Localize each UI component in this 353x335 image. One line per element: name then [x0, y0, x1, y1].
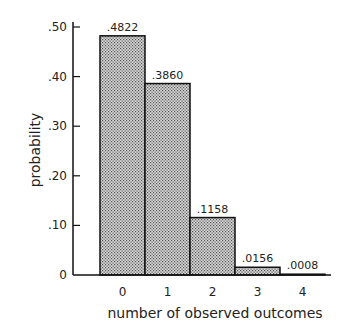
y-axis: 0.10.20.30.40.50	[48, 20, 80, 282]
x-axis-title: number of observed outcomes	[107, 305, 322, 321]
x-tick-label: 1	[164, 285, 172, 299]
bar-value-label: .4822	[107, 21, 139, 34]
bar-value-label: .3860	[152, 69, 184, 82]
x-axis: 01234	[73, 275, 331, 299]
y-tick-label: .20	[48, 169, 67, 183]
y-tick-label: .10	[48, 218, 67, 232]
x-tick-label: 3	[254, 285, 262, 299]
y-tick-label: .40	[48, 70, 67, 84]
bar-0	[100, 36, 145, 275]
y-tick-label: 0	[59, 268, 67, 282]
y-tick-label: .50	[48, 20, 67, 34]
bars: .4822.3860.1158.0156.0008	[100, 21, 325, 275]
bar-value-label: .0008	[287, 259, 319, 272]
x-tick-label: 2	[209, 285, 217, 299]
bar-value-label: .1158	[197, 203, 229, 216]
y-axis-title: probability	[27, 113, 43, 188]
x-tick-label: 0	[119, 285, 127, 299]
x-tick-label: 4	[299, 285, 307, 299]
probability-bar-chart: 0.10.20.30.40.50 .4822.3860.1158.0156.00…	[0, 0, 353, 335]
bar-2	[190, 218, 235, 275]
bar-3	[235, 267, 280, 275]
bar-1	[145, 84, 190, 275]
bar-value-label: .0156	[242, 252, 274, 265]
y-tick-label: .30	[48, 119, 67, 133]
